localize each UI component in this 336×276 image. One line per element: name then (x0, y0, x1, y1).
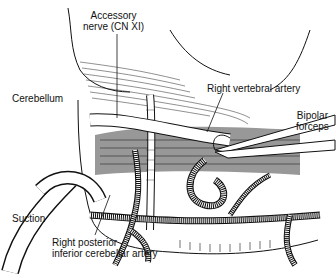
dura-contour-right (170, 30, 230, 75)
label-accessory-nerve: Accessory nerve (CN XI) (83, 10, 144, 32)
anatomical-illustration (0, 0, 336, 276)
label-bipolar-line2: forceps (296, 121, 329, 132)
label-accessory-line2: nerve (CN XI) (83, 21, 144, 32)
label-right-vertebral-artery: Right vertebral artery (207, 83, 300, 94)
label-pica-line1: Right posterior (52, 237, 158, 248)
label-pica-line2: inferior cerebellar artery (52, 248, 158, 259)
label-pica: Right posterior inferior cerebellar arte… (52, 237, 158, 259)
leader-vertebral (207, 93, 223, 132)
upper-edge (270, 30, 310, 90)
label-bipolar-line1: Bipolar (296, 110, 329, 121)
label-suction: Suction (12, 213, 45, 224)
label-cerebellum: Cerebellum (12, 93, 63, 104)
label-bipolar-forceps: Bipolar forceps (296, 110, 329, 132)
label-accessory-line1: Accessory (83, 10, 144, 21)
